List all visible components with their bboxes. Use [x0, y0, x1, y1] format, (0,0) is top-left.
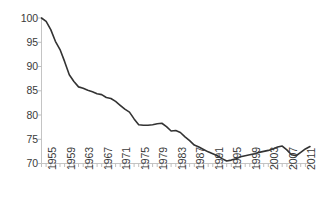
x-axis-tick-label: 1975 — [139, 147, 151, 170]
x-axis-tick-label: 1979 — [157, 147, 169, 170]
x-axis-tick-label: 1987 — [194, 147, 206, 170]
x-axis-tick-label: 1967 — [102, 147, 114, 170]
x-axis-tick-label: 2003 — [268, 147, 280, 170]
x-axis-tick-label: 1983 — [176, 147, 188, 170]
x-axis-tick-label: 1991 — [213, 147, 225, 170]
x-axis-tick-label: 1971 — [120, 147, 132, 170]
x-axis-tick-label: 1959 — [65, 147, 77, 170]
x-axis-tick-label: 1963 — [83, 147, 95, 170]
x-axis-tick-label: 1999 — [250, 147, 262, 170]
x-axis-tick-label: 2011 — [305, 147, 317, 169]
x-axis-tick-label: 2007 — [287, 147, 299, 170]
x-axis-tick-label: 1995 — [231, 147, 243, 170]
line-chart: 100959085807570 195519591963196719711975… — [0, 0, 321, 209]
x-axis-tick-label: 1955 — [46, 147, 58, 170]
x-axis-tick-labels: 1955195919631967197119751979198319871991… — [0, 0, 321, 209]
